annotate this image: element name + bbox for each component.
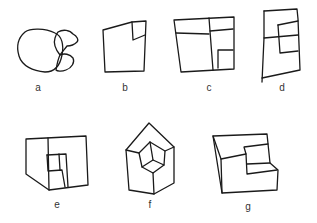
- figure-d-drawing: [262, 9, 300, 82]
- figure-label-f: f: [140, 199, 160, 210]
- figure-label-a: a: [28, 82, 48, 93]
- figure-e-drawing: [26, 136, 88, 190]
- figure-a-drawing: [18, 29, 78, 72]
- figure-label-g: g: [238, 201, 258, 212]
- figure-c-drawing: [174, 17, 234, 72]
- figure-label-d: d: [272, 82, 292, 93]
- figure-g-drawing: [213, 134, 278, 193]
- figure-label-b: b: [115, 82, 135, 93]
- figure-label-c: c: [199, 82, 219, 93]
- drawings-canvas: [0, 0, 317, 223]
- figure-b-drawing: [103, 21, 146, 72]
- figure-f-drawing: [126, 123, 174, 194]
- figure-label-e: e: [47, 199, 67, 210]
